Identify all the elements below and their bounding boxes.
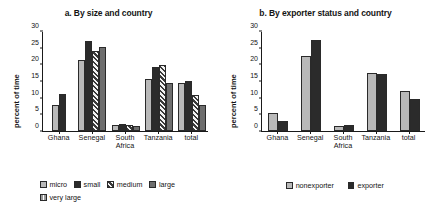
x-tick-label: total [185,134,199,142]
x-tick-mark [125,131,126,134]
bar [99,47,106,131]
y-tick-label: 30 [250,22,258,29]
bar-group [110,32,141,131]
bar [152,67,159,131]
legend-label: medium [117,180,143,189]
bar [377,74,387,131]
legend-label: nonexporter [296,181,334,190]
panel-a-x-tick-labels: GhanaSenegalSouthAfricaTanzaniatotal [42,132,208,150]
x-tick-label: SouthAfrica [334,134,353,150]
y-tick-label: 25 [31,38,39,45]
bar [301,56,311,131]
bar-group [394,32,425,131]
bar [145,79,152,131]
bar [133,126,140,131]
legend-swatch-icon [286,182,293,189]
panel-a-legend: microsmallmediumlargevery large [40,180,212,202]
legend-swatch-icon [348,182,355,189]
legend-label: small [84,180,101,189]
x-tick-label: Tanzania [361,134,390,142]
x-tick-mark [158,131,159,134]
x-tick-mark [277,131,278,134]
legend-item: very large [40,193,81,202]
legend-item: exporter [348,181,384,190]
panel-b-legend: nonexporterexporter [245,181,425,190]
bar-group [328,32,359,131]
legend-label: large [159,180,175,189]
bar [112,125,119,131]
bar-group [295,32,326,131]
bar [278,121,288,131]
x-tick-mark [310,131,311,134]
bar [367,73,377,131]
bar [334,126,344,131]
bar [92,51,99,131]
panel-b: b. By exporter status and country percen… [217,0,434,220]
bar [59,94,66,131]
x-tick-label: Ghana [267,134,289,142]
bar-group [361,32,392,131]
legend-label: very large [50,193,82,202]
bar-group [177,32,208,131]
bar [185,81,192,131]
legend-item: medium [107,180,142,189]
bar [311,40,321,131]
panel-b-title: b. By exporter status and country [217,8,434,18]
bar [126,125,133,131]
panel-b-plot: 051015202530 GhanaSenegalSouthAfricaTanz… [231,28,427,150]
legend-swatch-icon [149,181,156,188]
y-tick-label: 20 [250,55,258,62]
bar [78,60,85,131]
y-tick-label: 5 [35,105,39,112]
y-tick-label: 0 [254,122,258,129]
y-tick-label: 0 [35,122,39,129]
legend-swatch-icon [107,181,114,188]
bar-group [43,32,74,131]
legend-label: exporter [357,181,383,190]
y-tick-label: 15 [31,72,39,79]
bar-group [76,32,107,131]
legend-item: nonexporter [286,181,334,190]
x-tick-mark [376,131,377,134]
bar-group [262,32,293,131]
x-tick-label: Senegal [79,134,105,142]
panel-a-title: a. By size and country [0,8,217,18]
panel-a-plot: 051015202530 GhanaSenegalSouthAfricaTanz… [12,28,210,150]
legend-label: micro [50,180,68,189]
bar [178,83,185,132]
legend-swatch-icon [40,181,47,188]
x-tick-label: Tanzania [144,134,173,142]
panel-b-bar-groups [262,32,425,131]
bar [192,95,199,131]
bar [268,113,278,131]
y-tick-label: 10 [31,88,39,95]
legend-swatch-icon [40,194,47,201]
panel-a: a. By size and country percent of time 0… [0,0,217,220]
legend-swatch-icon [74,181,81,188]
x-tick-mark [191,131,192,134]
y-tick-label: 5 [254,105,258,112]
panel-a-bar-groups [43,32,208,131]
bar [199,105,206,131]
x-tick-label: Ghana [48,134,70,142]
bar [159,65,166,131]
y-tick-label: 30 [31,22,39,29]
bar [400,91,410,131]
panel-b-x-tick-labels: GhanaSenegalSouthAfricaTanzaniatotal [261,132,425,150]
y-tick-label: 15 [250,72,258,79]
bar [119,124,126,131]
bar-group [143,32,174,131]
legend-item: small [74,180,100,189]
legend-item: large [149,180,174,189]
bar [52,105,59,131]
bar [85,41,92,131]
x-tick-mark [92,131,93,134]
legend-item: micro [40,180,67,189]
y-tick-label: 20 [31,55,39,62]
bar [410,99,420,131]
x-tick-mark [409,131,410,134]
y-tick-label: 10 [250,88,258,95]
figure-container: a. By size and country percent of time 0… [0,0,434,220]
x-tick-label: SouthAfrica [116,134,135,150]
x-tick-label: total [402,134,416,142]
